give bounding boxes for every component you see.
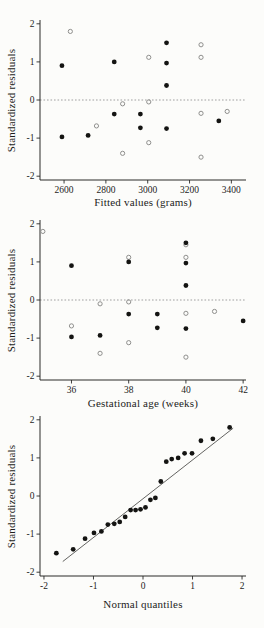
- data-point-filled: [169, 457, 174, 462]
- x-tick-label: 36: [67, 385, 77, 395]
- data-point-filled: [199, 438, 204, 443]
- data-point-open: [41, 229, 45, 233]
- data-point-filled: [123, 515, 128, 520]
- data-point-open: [147, 100, 151, 104]
- data-point-filled: [182, 451, 187, 456]
- data-point-filled: [138, 125, 143, 130]
- data-point-filled: [69, 335, 74, 340]
- data-point-open: [69, 324, 73, 328]
- data-point-open: [199, 55, 203, 59]
- data-point-filled: [83, 536, 88, 541]
- data-point-filled: [164, 459, 169, 464]
- y-tick-label: -2: [27, 567, 35, 577]
- data-point-filled: [216, 119, 221, 124]
- data-point-filled: [190, 451, 195, 456]
- data-point-open: [184, 355, 188, 359]
- fitted-values-panel: Standardized residuals -2-10122600280030…: [0, 0, 264, 211]
- data-point-filled: [54, 551, 59, 556]
- x-tick-label: 2600: [55, 185, 74, 195]
- data-point-filled: [210, 436, 215, 441]
- x-tick-label: -1: [90, 581, 98, 591]
- data-point-filled: [184, 326, 189, 331]
- data-point-filled: [158, 479, 163, 484]
- data-point-filled: [133, 508, 138, 513]
- x-tick-label: 2: [240, 581, 245, 591]
- data-point-filled: [164, 40, 169, 45]
- data-point-filled: [60, 63, 65, 68]
- y-tick-label: 0: [30, 491, 35, 501]
- x-tick-label: 38: [124, 385, 134, 395]
- data-point-open: [199, 43, 203, 47]
- data-point-open: [147, 141, 151, 145]
- y-tick-label: 0: [30, 295, 35, 305]
- data-point-filled: [164, 126, 169, 131]
- y-tick-label: -2: [27, 171, 35, 181]
- x-tick-label: 3000: [138, 185, 157, 195]
- y-tick-label: -1: [27, 529, 35, 539]
- normal-quantiles-panel: Standardized residuals -2-1012-2-1012 No…: [0, 412, 264, 628]
- data-point-filled: [98, 333, 103, 338]
- data-point-filled: [126, 260, 131, 265]
- y-tick-label: 0: [30, 95, 35, 105]
- data-point-filled: [241, 319, 246, 324]
- data-point-filled: [69, 263, 74, 268]
- data-point-filled: [117, 520, 122, 525]
- data-point-filled: [184, 261, 189, 266]
- normal-quantiles-plot: -2-1012-2-1012: [0, 412, 264, 628]
- data-point-open: [199, 111, 203, 115]
- data-point-open: [98, 302, 102, 306]
- y-tick-label: 1: [30, 257, 35, 267]
- data-point-open: [147, 55, 151, 59]
- data-point-filled: [105, 522, 110, 527]
- y-tick-label: -2: [27, 371, 35, 381]
- data-point-filled: [99, 529, 104, 534]
- x-tick-label: -2: [40, 581, 48, 591]
- y-tick-label: 1: [30, 57, 35, 67]
- x-tick-label: 0: [141, 581, 146, 591]
- data-point-filled: [126, 312, 131, 317]
- data-point-open: [184, 311, 188, 315]
- data-point-open: [121, 102, 125, 106]
- data-point-filled: [176, 456, 181, 461]
- data-point-open: [225, 109, 229, 113]
- data-point-filled: [60, 135, 65, 140]
- data-point-filled: [86, 133, 91, 138]
- fitted-values-plot: -2-101226002800300032003400: [0, 0, 264, 211]
- x-tick-label: 3400: [222, 185, 241, 195]
- data-point-open: [94, 124, 98, 128]
- x-axis-label: Gestational age (weeks): [40, 397, 246, 409]
- data-point-filled: [112, 60, 117, 65]
- x-tick-label: 1: [190, 581, 195, 591]
- x-tick-label: 42: [238, 385, 248, 395]
- data-point-filled: [138, 507, 143, 512]
- data-point-filled: [184, 240, 189, 245]
- data-point-filled: [155, 325, 160, 330]
- data-point-open: [127, 300, 131, 304]
- x-axis-label: Normal quantiles: [40, 598, 246, 610]
- data-point-open: [121, 151, 125, 155]
- y-tick-label: 2: [30, 415, 35, 425]
- data-point-filled: [143, 505, 148, 510]
- x-tick-label: 3200: [180, 185, 199, 195]
- data-point-filled: [148, 497, 153, 502]
- data-point-open: [212, 309, 216, 313]
- y-tick-label: -1: [27, 133, 35, 143]
- data-point-open: [68, 29, 72, 33]
- data-point-open: [98, 351, 102, 355]
- y-tick-label: 2: [30, 219, 35, 229]
- data-point-open: [199, 155, 203, 159]
- data-point-filled: [92, 531, 97, 536]
- qq-reference-line: [63, 428, 233, 561]
- gestational-age-plot: -2-101236384042: [0, 211, 264, 412]
- x-tick-label: 40: [181, 385, 191, 395]
- axis-lines: [40, 416, 246, 576]
- data-point-filled: [112, 521, 117, 526]
- data-point-filled: [164, 83, 169, 88]
- data-point-filled: [153, 496, 158, 501]
- data-point-filled: [164, 61, 169, 66]
- data-point-filled: [112, 112, 117, 117]
- data-point-filled: [227, 425, 232, 430]
- data-point-filled: [138, 112, 143, 117]
- y-tick-label: 1: [30, 453, 35, 463]
- y-tick-label: -1: [27, 333, 35, 343]
